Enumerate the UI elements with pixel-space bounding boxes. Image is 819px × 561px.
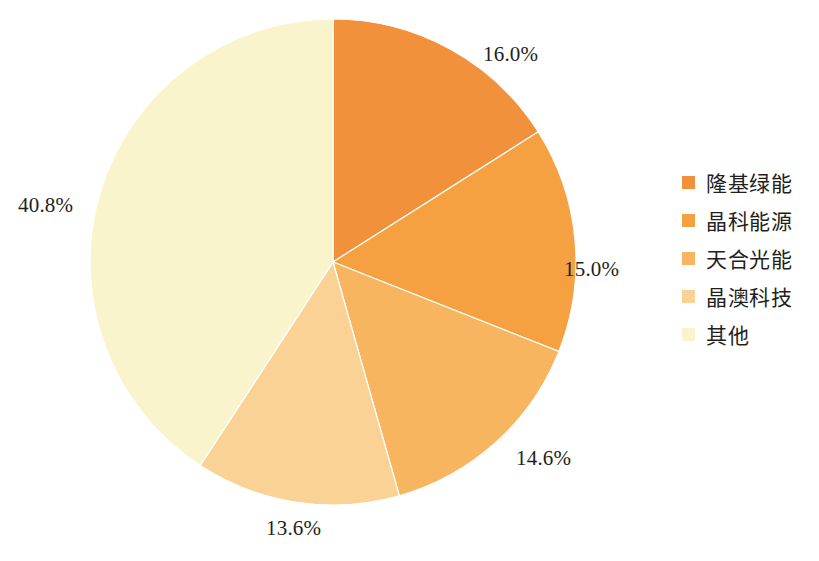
legend-color-swatch bbox=[682, 252, 695, 265]
legend-color-swatch bbox=[682, 176, 695, 189]
legend-item-label: 晶澳科技 bbox=[706, 281, 792, 311]
pie-slice-percentage: 14.6% bbox=[516, 446, 571, 471]
chart-legend: 隆基绿能晶科能源天合光能晶澳科技其他 bbox=[682, 163, 817, 353]
legend-item[interactable]: 晶澳科技 bbox=[682, 277, 817, 315]
pie-chart-figure: 16.0%15.0%14.6%13.6%40.8% 隆基绿能晶科能源天合光能晶澳… bbox=[0, 0, 819, 561]
legend-item-label: 其他 bbox=[706, 319, 749, 349]
figure-caption bbox=[0, 551, 660, 561]
pie-slice-percentage: 15.0% bbox=[564, 257, 619, 282]
legend-item-label: 晶科能源 bbox=[706, 205, 792, 235]
pie-svg bbox=[0, 0, 660, 561]
pie-plot-area bbox=[0, 0, 660, 561]
legend-color-swatch bbox=[682, 328, 695, 341]
legend-item-label: 天合光能 bbox=[706, 243, 792, 273]
pie-slice-percentage: 16.0% bbox=[483, 42, 538, 67]
pie-slice-percentage: 13.6% bbox=[266, 516, 321, 541]
pie-slice-percentage: 40.8% bbox=[18, 193, 73, 218]
legend-color-swatch bbox=[682, 290, 695, 303]
legend-item[interactable]: 晶科能源 bbox=[682, 201, 817, 239]
legend-color-swatch bbox=[682, 214, 695, 227]
legend-item[interactable]: 天合光能 bbox=[682, 239, 817, 277]
legend-item[interactable]: 隆基绿能 bbox=[682, 163, 817, 201]
legend-item[interactable]: 其他 bbox=[682, 315, 817, 353]
legend-item-label: 隆基绿能 bbox=[706, 167, 792, 197]
